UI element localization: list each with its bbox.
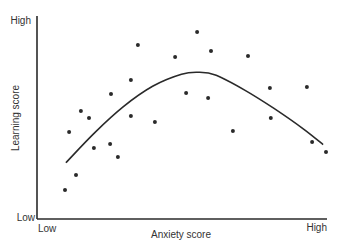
- data-point: [246, 54, 250, 58]
- data-point: [92, 146, 96, 150]
- data-point: [231, 129, 235, 133]
- y-low-label: Low: [17, 212, 36, 223]
- y-high-label: High: [10, 15, 31, 26]
- x-high-label: High: [306, 222, 327, 233]
- data-point: [129, 78, 133, 82]
- data-point: [63, 188, 67, 192]
- data-point: [108, 142, 112, 146]
- data-point: [305, 85, 309, 89]
- data-point: [195, 30, 199, 34]
- scatter-chart: High Low Low High Anxiety score Learning…: [0, 0, 341, 248]
- data-point: [74, 173, 78, 177]
- data-point: [324, 150, 328, 154]
- data-point: [129, 114, 133, 118]
- x-low-label: Low: [38, 223, 57, 234]
- data-point: [184, 91, 188, 95]
- data-point: [153, 120, 157, 124]
- data-point: [116, 155, 120, 159]
- data-point: [268, 86, 272, 90]
- data-point: [206, 96, 210, 100]
- data-point: [87, 116, 91, 120]
- data-point: [173, 55, 177, 59]
- plot-area: [63, 30, 328, 192]
- data-point: [310, 140, 314, 144]
- data-point: [79, 109, 83, 113]
- data-point: [269, 116, 273, 120]
- x-axis-title: Anxiety score: [151, 229, 211, 240]
- trend-curve: [66, 72, 323, 163]
- data-point: [209, 49, 213, 53]
- data-point: [67, 130, 71, 134]
- y-axis-title: Learning score: [10, 84, 21, 151]
- data-point: [109, 92, 113, 96]
- data-point: [136, 43, 140, 47]
